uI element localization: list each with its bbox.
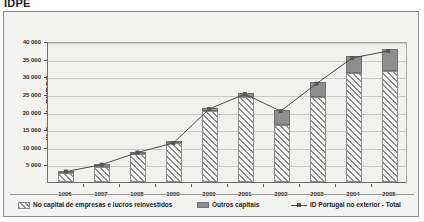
y-axis-tick-label: 35 000	[11, 57, 41, 63]
bar-segment-capital	[94, 167, 109, 182]
legend-item-label: ID Portugal no exterior - Total	[310, 201, 401, 209]
x-axis-tick-mark	[335, 184, 336, 187]
legend-item-label: Outros capitais	[212, 201, 259, 209]
bar-segment-outros	[94, 164, 109, 167]
bar-segment-capital	[238, 97, 253, 182]
bar-segment-capital	[346, 73, 361, 182]
x-axis-tick-mark	[83, 184, 84, 187]
bar-segment-outros	[238, 93, 253, 98]
bar-segment-capital	[310, 97, 325, 182]
line-marker-icon	[291, 202, 307, 209]
bar-segment-capital	[382, 71, 397, 182]
bar-column[interactable]	[58, 42, 73, 182]
plot-area	[47, 42, 407, 183]
bar-segment-outros	[166, 141, 181, 143]
bar-column[interactable]	[310, 42, 325, 182]
bar-segment-outros	[130, 152, 145, 154]
bar-segment-capital	[202, 111, 217, 182]
bar-column[interactable]	[382, 42, 397, 182]
x-axis-tick-mark	[263, 184, 264, 187]
legend-item-capital: No capital de empresas e lucros reinvest…	[18, 201, 172, 209]
legend-item-outros: Outros capitais	[197, 201, 259, 209]
bar-column[interactable]	[166, 42, 181, 182]
bar-segment-capital	[58, 173, 73, 182]
x-axis-tick-mark	[299, 184, 300, 187]
bar-segment-outros	[346, 56, 361, 73]
x-axis-tick-mark	[227, 184, 228, 187]
bar-segment-outros	[202, 108, 217, 111]
bar-segment-capital	[166, 143, 181, 182]
y-axis-tick-label: 20 000	[11, 110, 41, 116]
bar-segment-outros	[382, 49, 397, 71]
chart-legend: No capital de empresas e lucros reinvest…	[4, 194, 420, 214]
legend-separator	[10, 194, 414, 195]
bar-segment-outros	[274, 110, 289, 124]
x-axis-tick-mark	[371, 184, 372, 187]
x-axis-tick-mark	[191, 184, 192, 187]
hatched-swatch-icon	[18, 202, 30, 209]
y-axis-tick-label: 40 000	[11, 39, 41, 45]
page-title: IDPE	[4, 0, 30, 9]
y-axis-tick-label: 5 000	[11, 162, 41, 168]
y-axis-tick-label: 30 000	[11, 74, 41, 80]
legend-item-total: ID Portugal no exterior - Total	[291, 201, 401, 209]
bar-column[interactable]	[238, 42, 253, 182]
bar-segment-outros	[58, 171, 73, 173]
solid-gray-swatch-icon	[197, 202, 209, 208]
y-axis-tick-label: 25 000	[11, 92, 41, 98]
bar-column[interactable]	[346, 42, 361, 182]
chart-frame: milhões de EUROS 5 00010 00015 00020 000…	[3, 11, 419, 217]
bar-column[interactable]	[274, 42, 289, 182]
bar-column[interactable]	[202, 42, 217, 182]
bar-segment-outros	[310, 82, 325, 97]
x-axis-tick-mark	[119, 184, 120, 187]
bar-column[interactable]	[130, 42, 145, 182]
bar-segment-capital	[274, 125, 289, 182]
bar-segment-capital	[130, 154, 145, 182]
y-axis-tick-label: 10 000	[11, 145, 41, 151]
x-axis-tick-mark	[155, 184, 156, 187]
chart-figure: IDPE milhões de EUROS 5 00010 00015 0002…	[0, 0, 424, 222]
bar-column[interactable]	[94, 42, 109, 182]
legend-item-label: No capital de empresas e lucros reinvest…	[33, 201, 172, 209]
y-axis-tick-label: 15 000	[11, 127, 41, 133]
